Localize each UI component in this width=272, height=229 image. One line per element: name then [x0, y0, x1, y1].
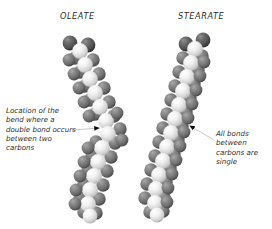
callout-text-all-single-bonds: All bonds between carbons are single: [216, 129, 270, 166]
molecule-title-oleate: OLEATE: [60, 11, 95, 21]
molecule-comparison-figure: OLEATE STEARATE Location of the bend whe…: [0, 0, 272, 229]
callout-leader-right: [190, 126, 214, 140]
molecule-title-stearate: STEARATE: [178, 11, 224, 21]
molecule-stearate: [138, 33, 210, 223]
callout-text-double-bond-bend: Location of the bend where a double bond…: [6, 106, 78, 152]
